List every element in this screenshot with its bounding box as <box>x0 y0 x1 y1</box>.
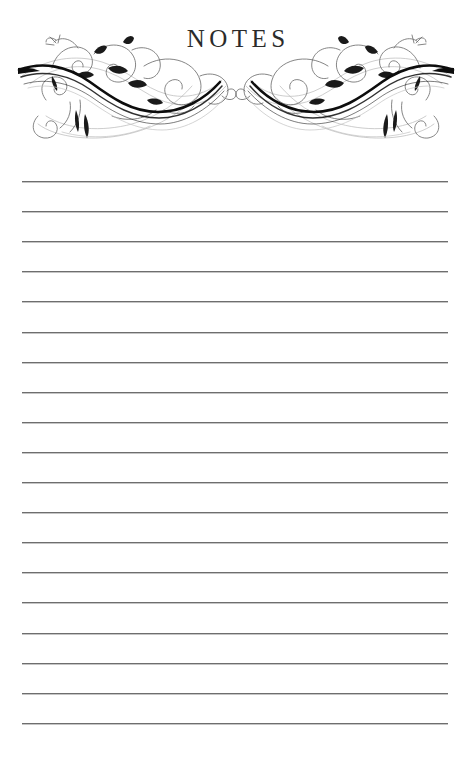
writing-rule-line <box>22 392 448 393</box>
writing-rule-line <box>22 241 448 242</box>
writing-rule-line <box>22 362 448 363</box>
writing-rule-line <box>22 723 448 724</box>
writing-rule-line <box>22 332 448 333</box>
writing-rule-line <box>22 181 448 182</box>
writing-rule-line <box>22 572 448 573</box>
writing-rule-line <box>22 301 448 302</box>
writing-rule-line <box>22 211 448 212</box>
writing-rule-line <box>22 663 448 664</box>
writing-rule-line <box>22 542 448 543</box>
writing-rule-line <box>22 633 448 634</box>
writing-rule-line <box>22 452 448 453</box>
writing-rule-line <box>22 693 448 694</box>
writing-rule-line <box>22 482 448 483</box>
writing-rule-line <box>22 422 448 423</box>
writing-rule-line <box>22 271 448 272</box>
ruled-lines-area <box>0 0 472 760</box>
writing-rule-line <box>22 512 448 513</box>
writing-rule-line <box>22 602 448 603</box>
note-paper-page: NOTES <box>0 0 472 760</box>
